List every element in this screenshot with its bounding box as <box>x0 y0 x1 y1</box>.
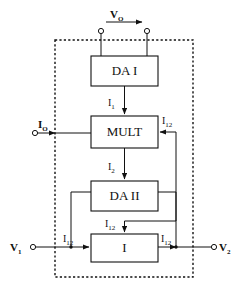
block-da1[interactable]: DA I <box>91 56 158 86</box>
vo-left-terminal[interactable] <box>98 28 103 33</box>
block-i-label: I <box>122 240 126 255</box>
label-v2: V2 <box>219 241 231 256</box>
label-i12-left: I12 <box>63 233 74 247</box>
wire-i-output <box>158 132 217 250</box>
block-da2-label: DA II <box>110 188 140 203</box>
io-terminal[interactable] <box>32 130 37 135</box>
label-i12-top-i: I12 <box>105 218 116 232</box>
wire-da2-left-path <box>71 192 91 247</box>
block-i[interactable]: I <box>91 234 158 262</box>
block-mult-label: MULT <box>107 124 143 139</box>
figure-canvas: DA I MULT DA II <box>0 0 239 294</box>
label-io: IO <box>38 118 48 133</box>
label-vo: VO <box>110 8 124 23</box>
block-da2[interactable]: DA II <box>91 181 158 211</box>
block-mult[interactable]: MULT <box>91 116 158 148</box>
vo-port-group <box>98 22 149 56</box>
block-da1-label: DA I <box>112 63 138 78</box>
label-i12-right: I12 <box>161 233 172 247</box>
v1-terminal[interactable] <box>30 244 35 249</box>
label-i2: I2 <box>108 161 115 175</box>
block-diagram-svg: DA I MULT DA II <box>0 0 239 294</box>
label-v1: V1 <box>10 241 22 256</box>
label-i1: I1 <box>108 97 115 111</box>
wire-da2-left-feedback <box>71 192 91 247</box>
vo-right-terminal[interactable] <box>144 28 149 33</box>
wire-io <box>32 130 91 135</box>
v2-terminal[interactable] <box>211 244 216 249</box>
label-i12-mult: I12 <box>162 115 173 129</box>
wire-v1 <box>30 244 89 249</box>
